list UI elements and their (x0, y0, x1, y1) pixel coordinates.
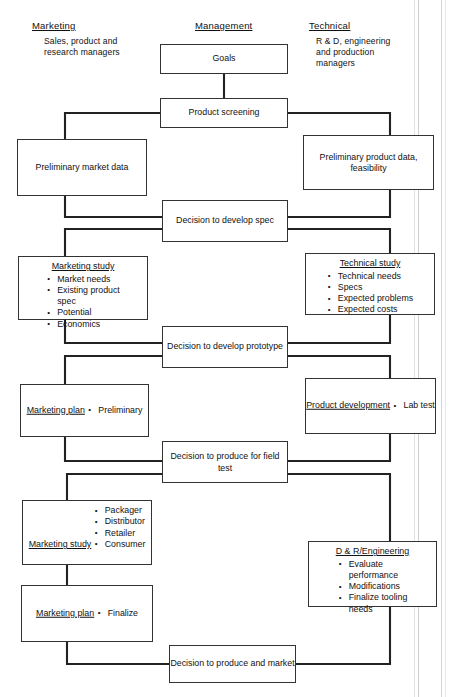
node-preliminary-product-data[interactable]: Preliminary product data, feasibility (303, 135, 434, 190)
node-marketing-plan-1-title: Marketing plan (27, 404, 85, 416)
list-item: Preliminary (87, 404, 142, 415)
column-heading-technical: Technical (309, 20, 350, 31)
node-product-development-items: Lab test (393, 400, 435, 411)
list-item: Packager (94, 505, 146, 516)
node-goals[interactable]: Goals (160, 44, 288, 74)
node-marketing-study-1-title: Marketing study (52, 261, 115, 273)
node-marketing-study-1-items: Market needs Existing product spec Poten… (46, 274, 120, 330)
list-item: Expected costs (327, 304, 413, 315)
node-preliminary-product-data-label: Preliminary product data, feasibility (304, 151, 433, 174)
node-product-screening[interactable]: Product screening (160, 98, 288, 128)
node-product-development-title: Product development (306, 400, 390, 412)
node-decision-produce-and-market[interactable]: Decision to produce and market (169, 645, 296, 683)
node-preliminary-market-data[interactable]: Preliminary market data (17, 139, 147, 196)
column-heading-marketing: Marketing (32, 20, 76, 31)
node-dr-engineering-items: Evaluate performance Modifications Final… (338, 559, 408, 615)
column-subtitle-technical: R & D, engineering and production manage… (316, 36, 390, 69)
list-item: Finalize (97, 607, 138, 618)
node-decision-produce-field-test-label: Decision to produce for field test (163, 451, 287, 474)
list-item: Specs (327, 282, 413, 293)
node-technical-study-items: Technical needs Specs Expected problems … (327, 271, 413, 316)
list-item: Technical needs (327, 271, 413, 282)
node-decision-produce-field-test[interactable]: Decision to produce for field test (162, 441, 288, 483)
list-item: Modifications (338, 581, 408, 592)
list-item: Expected problems (327, 293, 413, 304)
node-marketing-study-2[interactable]: Marketing study Packager Distributor Ret… (22, 500, 152, 565)
list-item: Finalize tooling needs (338, 592, 408, 615)
node-marketing-plan-1[interactable]: Marketing plan Preliminary (20, 384, 149, 437)
column-heading-management: Management (195, 20, 252, 31)
node-marketing-study-1[interactable]: Marketing study Market needs Existing pr… (18, 256, 148, 320)
node-marketing-plan-2-items: Finalize (97, 607, 138, 618)
list-item: Consumer (94, 539, 146, 550)
node-decision-develop-prototype-label: Decision to develop prototype (163, 341, 287, 353)
node-decision-develop-spec[interactable]: Decision to develop spec (162, 200, 288, 242)
node-product-screening-label: Product screening (161, 107, 287, 119)
node-decision-produce-and-market-label: Decision to produce and market (170, 658, 295, 670)
node-product-development[interactable]: Product development Lab test (305, 378, 436, 434)
node-decision-develop-prototype[interactable]: Decision to develop prototype (162, 326, 288, 368)
node-technical-study-title: Technical study (340, 258, 401, 270)
list-item: Economics (46, 319, 120, 330)
node-dr-engineering-title: D & R/Engineering (336, 546, 410, 558)
scan-edge-4 (445, 0, 446, 697)
list-item: Market needs (46, 274, 120, 285)
list-item: Retailer (94, 528, 146, 539)
column-subtitle-marketing: Sales, product and research managers (44, 36, 120, 58)
list-item: Evaluate performance (338, 559, 408, 582)
node-marketing-study-2-title: Marketing study (29, 539, 92, 551)
node-marketing-plan-2[interactable]: Marketing plan Finalize (21, 585, 153, 642)
node-preliminary-market-data-label: Preliminary market data (18, 162, 146, 174)
node-marketing-plan-1-items: Preliminary (87, 404, 142, 415)
node-marketing-study-2-items: Packager Distributor Retailer Consumer (94, 505, 146, 550)
node-decision-develop-spec-label: Decision to develop spec (163, 215, 287, 227)
node-marketing-plan-2-title: Marketing plan (36, 607, 94, 619)
list-item: Potential (46, 307, 120, 318)
node-dr-engineering[interactable]: D & R/Engineering Evaluate performance M… (308, 541, 437, 607)
node-goals-label: Goals (161, 53, 287, 65)
list-item: Lab test (393, 400, 435, 411)
list-item: Existing product spec (46, 285, 120, 308)
node-technical-study[interactable]: Technical study Technical needs Specs Ex… (305, 253, 435, 315)
scan-edge-3 (441, 0, 442, 697)
list-item: Distributor (94, 516, 146, 527)
